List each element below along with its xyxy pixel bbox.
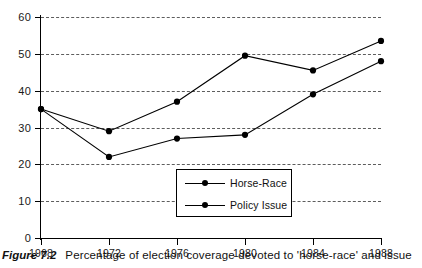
legend-label-horse-race: Horse-Race xyxy=(230,177,287,189)
data-point xyxy=(378,58,384,64)
legend-label-policy-issue: Policy Issue xyxy=(230,199,287,211)
data-point xyxy=(378,38,384,44)
data-point xyxy=(174,135,180,141)
data-point xyxy=(174,99,180,105)
data-point xyxy=(310,67,316,73)
legend-box: Horse-Race Policy Issue xyxy=(176,169,292,217)
series-plot xyxy=(0,0,422,268)
data-point xyxy=(38,106,44,112)
figure-caption: Figure 7.2Percentage of election coverag… xyxy=(2,249,420,261)
legend-item-horse-race: Horse-Race xyxy=(185,176,287,190)
data-point xyxy=(242,132,248,138)
series-line-policy-issue xyxy=(41,61,381,157)
figure-caption-text: Percentage of election coverage devoted … xyxy=(65,249,412,261)
figure-chart: 0102030405060 196819721976198019841988 H… xyxy=(0,0,422,268)
legend-marker-horse-race-icon xyxy=(185,179,225,188)
legend-item-policy-issue: Policy Issue xyxy=(185,198,287,212)
data-point xyxy=(310,91,316,97)
figure-number: Figure 7.2 xyxy=(2,249,56,261)
data-point xyxy=(106,128,112,134)
data-point xyxy=(242,53,248,59)
data-point xyxy=(106,154,112,160)
legend-marker-policy-issue-icon xyxy=(185,201,225,210)
